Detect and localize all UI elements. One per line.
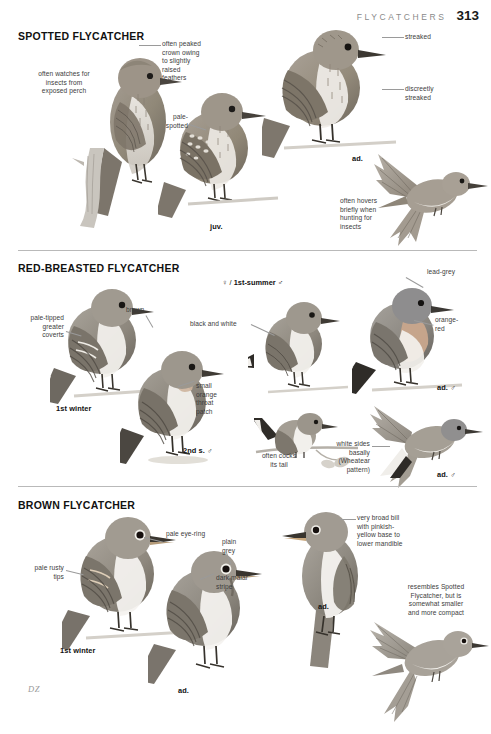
illustration-brown-flycatcher-flight xyxy=(366,614,490,734)
caption-juvenile: juv. xyxy=(210,222,223,231)
annotation-orange-red: orange-red xyxy=(435,316,483,333)
annotation-brown: brown xyxy=(126,306,160,315)
annotation-lead-grey: lead-grey xyxy=(427,268,483,277)
artist-signature: DZ xyxy=(28,684,40,694)
section-divider-1 xyxy=(18,250,477,251)
section-heading-red-breasted-flycatcher: RED-BREASTED FLYCATCHER xyxy=(18,262,180,274)
caption-adult-spotted: ad. xyxy=(352,154,363,163)
section-divider-2 xyxy=(18,486,477,487)
illustration-brown-flycatcher-adult-centre xyxy=(148,548,278,698)
annotation-pale-rusty-tips: pale rustytips xyxy=(14,564,64,581)
running-head-title: FLYCATCHERS xyxy=(357,12,447,22)
caption-female-1st-summer-male: ♀ / 1st-summer ♂ xyxy=(222,278,283,287)
annotation-small-orange-throat-patch: smallorangethroatpatch xyxy=(196,382,240,416)
annotation-resembles-spotted: resembles SpottedFlycatcher, but issomew… xyxy=(390,583,482,617)
annotation-cocks-tail: often cocksits tail xyxy=(248,452,310,469)
leader-line-broad-bill xyxy=(340,519,356,520)
leader-line-streaked xyxy=(382,37,404,38)
illustration-red-breasted-female xyxy=(248,292,358,402)
annotation-watches-insects: often watches forinsects fromexposed per… xyxy=(16,70,112,96)
caption-adult-male-flight: ad. ♂ xyxy=(437,470,456,479)
annotation-pale-spotted: pale-spotted xyxy=(146,113,188,130)
caption-adult-brown-centre: ad. xyxy=(178,686,189,695)
annotation-pale-tipped-coverts: pale-tippedgreatercoverts xyxy=(14,314,64,340)
annotation-broad-bill: very broad billwith pinkish-yellow base … xyxy=(357,514,429,548)
leader-line-discreetly-streaked xyxy=(382,89,404,90)
annotation-hovers: often hoversbriefly whenhunting forinsec… xyxy=(340,197,400,231)
caption-1st-winter-brown: 1st winter xyxy=(60,646,96,655)
annotation-white-sides: white sidesbasally(Wheatearpattern) xyxy=(314,440,370,474)
caption-2nd-summer-male: 2nd s. ♂ xyxy=(183,446,213,455)
annotation-black-and-white: black and white xyxy=(190,320,252,329)
annotation-peaked-crown: often peakedcrown owingto slightlyraised… xyxy=(162,40,222,83)
section-heading-brown-flycatcher: BROWN FLYCATCHER xyxy=(18,499,135,511)
page-number: 313 xyxy=(456,8,479,23)
section-heading-spotted-flycatcher: SPOTTED FLYCATCHER xyxy=(18,30,144,42)
leader-line-white-sides xyxy=(372,446,390,447)
annotation-discreetly-streaked: discreetlystreaked xyxy=(405,85,467,102)
leader-line-peaked-crown xyxy=(139,45,161,46)
annotation-plain-grey: plaingrey xyxy=(222,538,266,555)
page-header: FLYCATCHERS 313 xyxy=(357,8,479,23)
field-guide-page: FLYCATCHERS 313 SPOTTED FLYCATCHER xyxy=(0,0,491,734)
annotation-dark-malar-stripe: dark malarstripe xyxy=(216,574,272,591)
caption-adult-brown-right: ad. xyxy=(318,602,329,611)
caption-1st-winter-red-breasted: 1st winter xyxy=(56,404,92,413)
illustration-perch-stump xyxy=(68,148,118,232)
illustration-red-breasted-adult-male-flight xyxy=(368,404,486,490)
caption-adult-male-perched: ad. ♂ xyxy=(437,383,456,392)
annotation-streaked: streaked xyxy=(405,33,465,42)
